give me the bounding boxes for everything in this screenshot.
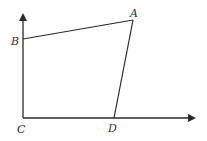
label-B: B: [10, 35, 19, 48]
label-A: A: [129, 7, 138, 20]
segment-AD: [114, 20, 133, 118]
diagram-canvas: A B C D: [0, 0, 207, 141]
label-C: C: [17, 123, 26, 136]
segment-BA: [23, 20, 133, 39]
label-D: D: [107, 122, 117, 135]
